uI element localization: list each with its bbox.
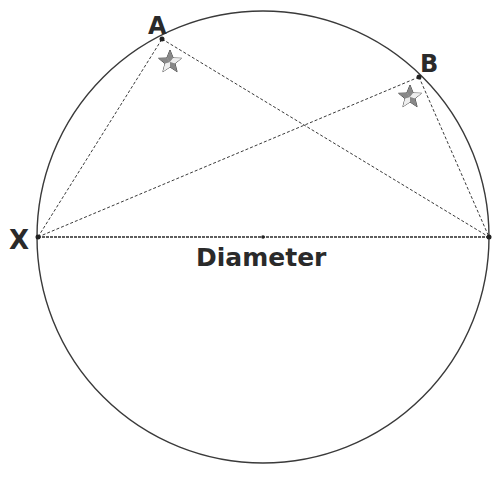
chord-b-y (419, 77, 489, 237)
star-icon (399, 85, 422, 107)
label-x: X (9, 225, 29, 255)
diameter-label: Diameter (196, 243, 327, 272)
chord-x-b (38, 77, 419, 237)
star-icon (159, 50, 182, 72)
chord-a-y (162, 39, 489, 237)
point-y (487, 235, 492, 240)
label-a: A (148, 12, 167, 40)
chord-x-a (38, 39, 162, 237)
center-point (261, 235, 265, 239)
point-x (36, 235, 41, 240)
label-b: B (420, 50, 438, 78)
diagram-canvas: A B X Diameter (0, 0, 496, 478)
